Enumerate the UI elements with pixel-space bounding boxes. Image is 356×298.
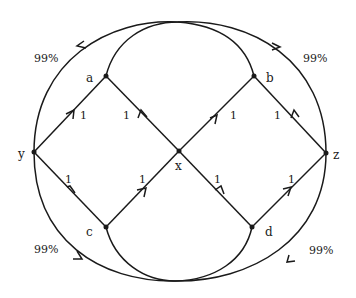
label-x: x bbox=[175, 159, 182, 173]
node-z bbox=[324, 151, 329, 156]
weight-y-a: 1 bbox=[80, 109, 87, 122]
edge-y-a bbox=[34, 76, 106, 152]
weight-c-y: 1 bbox=[65, 173, 72, 186]
node-c bbox=[104, 225, 109, 230]
node-d bbox=[250, 225, 255, 230]
label-b: b bbox=[266, 71, 274, 85]
node-b bbox=[252, 74, 257, 79]
weight-arc-top-left: 99% bbox=[34, 52, 58, 65]
weight-arc-bottom-right: 99% bbox=[309, 244, 333, 257]
arc-top-right bbox=[106, 22, 326, 153]
weight-x-a: 1 bbox=[123, 109, 130, 122]
label-a: a bbox=[86, 71, 93, 85]
label-d: d bbox=[265, 225, 273, 239]
weight-arc-top-right: 99% bbox=[303, 52, 327, 65]
edge-y-c bbox=[34, 152, 106, 227]
weight-arc-bottom-left: 99% bbox=[34, 243, 58, 256]
flow-graph-diagram: y a b x z c d 1 1 1 1 1 1 1 1 99% 99% 99… bbox=[0, 0, 356, 298]
weight-d-x: 1 bbox=[214, 173, 221, 186]
weight-z-b: 1 bbox=[274, 109, 281, 122]
arrow-icon bbox=[77, 41, 86, 48]
node-x bbox=[177, 149, 182, 154]
weight-x-b: 1 bbox=[230, 109, 237, 122]
edge-a-x bbox=[106, 76, 179, 151]
arrow-icon bbox=[287, 255, 295, 262]
weight-d-z: 1 bbox=[288, 173, 295, 186]
node-y bbox=[32, 150, 37, 155]
label-y: y bbox=[17, 147, 25, 161]
arc-top-left bbox=[34, 22, 254, 152]
label-c: c bbox=[86, 225, 93, 239]
node-a bbox=[104, 74, 109, 79]
weight-c-x: 1 bbox=[139, 173, 146, 186]
arc-bottom-left bbox=[34, 152, 252, 281]
edge-x-b bbox=[179, 76, 254, 151]
edge-d-z bbox=[252, 153, 326, 227]
edge-b-z bbox=[254, 76, 326, 153]
label-z: z bbox=[333, 148, 339, 162]
arrow-icon bbox=[73, 251, 82, 259]
arrow-icon bbox=[291, 110, 299, 118]
